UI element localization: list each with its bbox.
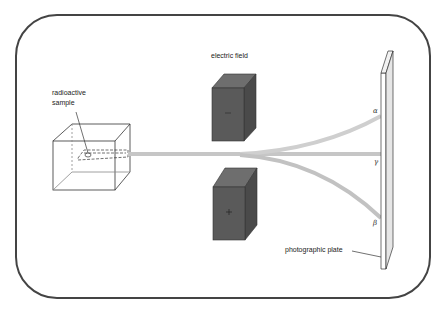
sample-box: [53, 124, 130, 190]
sample-leader-line: [76, 112, 88, 153]
beta-beam: [240, 155, 381, 218]
gamma-label: γ: [374, 158, 378, 166]
negative-electrode: [212, 74, 256, 141]
alpha-beam: [240, 116, 381, 154]
beta-label: β: [373, 219, 377, 227]
sample-label-line2: sample: [52, 98, 86, 108]
sample-label-line1: radioactive: [52, 88, 86, 98]
sample-channel: [76, 112, 128, 160]
positive-electrode: [213, 168, 257, 240]
photographic-plate: [352, 51, 393, 269]
photographic-plate-label: photographic plate: [285, 245, 343, 255]
plate-leader-line: [352, 251, 381, 257]
radioactive-sample-label: radioactive sample: [52, 88, 86, 108]
alpha-label: α: [373, 107, 378, 115]
electric-field-label: electric field: [211, 51, 248, 61]
radioactive-sample-icon: [85, 153, 91, 157]
diagram-canvas: [0, 0, 444, 312]
